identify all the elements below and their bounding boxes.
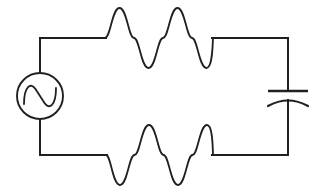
circuit-diagram-canvas: AC circuit loop with source, two inducto… [0,0,321,194]
ac-source [17,73,63,119]
inductor-bottom-waveform [106,125,213,185]
inductor-top-waveform [105,8,213,68]
circuit-schematic-svg [0,0,321,194]
